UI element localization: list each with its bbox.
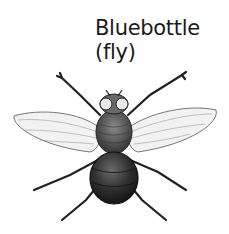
thorax (96, 110, 132, 154)
head (100, 90, 128, 114)
abdomen (90, 152, 138, 204)
fly-illustration (0, 0, 229, 234)
